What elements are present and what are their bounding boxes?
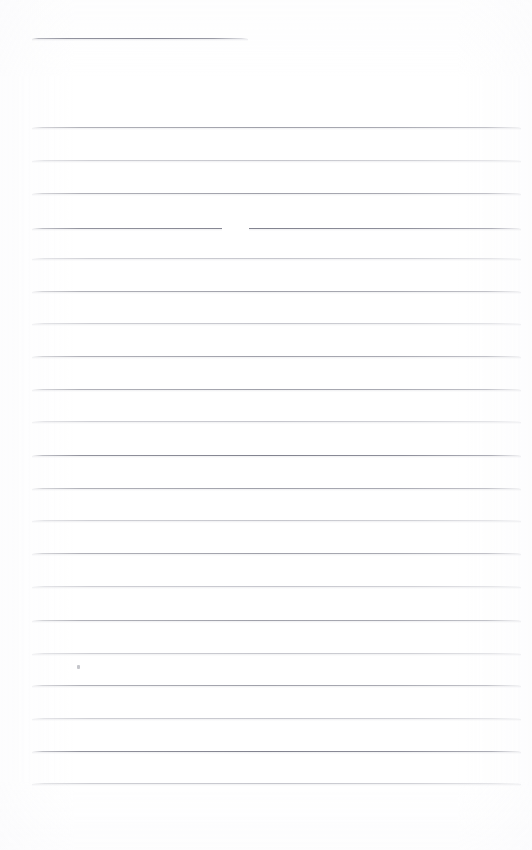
ruled-line [32,193,521,194]
ruled-line [32,323,521,324]
stray-pencil-dot [77,665,80,669]
ruled-line [32,520,521,521]
ruled-line [32,258,521,259]
header-rule [32,38,248,39]
ruled-line [32,620,521,621]
scanned-page [0,0,532,850]
ruled-line [32,783,521,784]
ruled-line [32,421,521,422]
ruled-line [32,553,521,554]
ruled-line [32,356,521,357]
ruled-line [32,685,521,686]
ruled-line-gap [222,227,249,231]
ruled-line [32,455,521,456]
ruled-line [32,160,521,161]
ruled-line [32,389,521,390]
ruled-line [32,751,521,752]
ruled-line [32,586,521,587]
ruled-line [32,127,521,128]
ruled-line [32,228,521,229]
ruled-line [32,718,521,719]
ruled-line [32,653,521,654]
ruled-line [32,291,521,292]
ruled-line [32,488,521,489]
